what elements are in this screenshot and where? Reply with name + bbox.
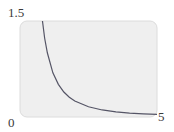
plot-area: [20, 21, 157, 117]
y-tick-label-top: 1.5: [8, 5, 24, 20]
origin-tick-label: 0: [8, 115, 15, 130]
x-tick-label-right: 5: [158, 109, 165, 124]
chart: 1.5 0 5: [0, 0, 174, 132]
